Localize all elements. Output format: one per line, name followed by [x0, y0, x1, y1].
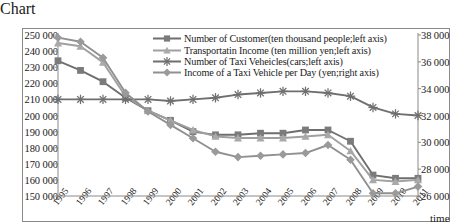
chart-legend: Number of Customer(ten thousand people;l…	[152, 33, 410, 79]
legend-marker-asterisk-icon	[152, 56, 182, 67]
series-2	[53, 87, 422, 121]
chart-figure: 150 000160 000170 000180 000190 000200 0…	[0, 18, 473, 224]
legend-marker-diamond-icon	[152, 67, 182, 78]
legend-marker-triangle-icon	[152, 45, 182, 56]
legend-item: Income of a Taxi Vehicle per Day (yen;ri…	[152, 67, 410, 78]
legend-label: Income of a Taxi Vehicle per Day (yen;ri…	[184, 67, 379, 78]
x-axis-title: time	[430, 212, 450, 224]
legend-label: Number of Customer(ten thousand people;l…	[184, 33, 387, 44]
legend-item: Number of Taxi Veheicles(cars;left axis)	[152, 56, 410, 67]
legend-marker-square-icon	[152, 33, 182, 44]
legend-item: Transportatin Income (ten million yen;le…	[152, 44, 410, 55]
legend-label: Number of Taxi Veheicles(cars;left axis)	[184, 56, 343, 67]
legend-label: Transportatin Income (ten million yen;le…	[184, 45, 371, 56]
legend-item: Number of Customer(ten thousand people;l…	[152, 33, 410, 44]
